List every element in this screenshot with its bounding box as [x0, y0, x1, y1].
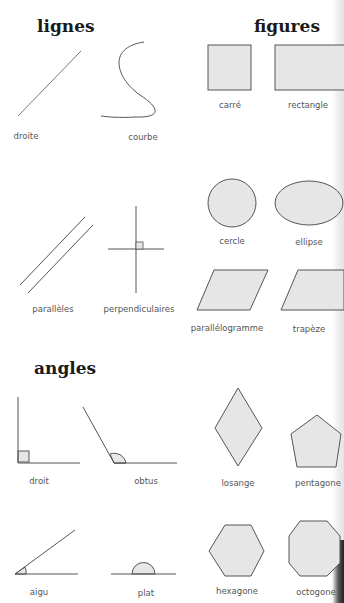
square-shape	[208, 45, 251, 90]
straight-angle-arc	[132, 563, 155, 575]
parallel-line-2	[28, 225, 93, 293]
label-hexagone: hexagone	[216, 586, 258, 596]
right-angle-marker	[136, 242, 143, 249]
label-paralleles: parallèles	[32, 304, 73, 314]
parallelogram-shape	[197, 270, 268, 310]
parallel-line-1	[20, 217, 85, 285]
label-droit: droit	[29, 476, 49, 486]
right-angle-marker-droit	[18, 451, 29, 462]
label-rectangle: rectangle	[288, 100, 328, 110]
label-parallelogramme: parallélogramme	[191, 323, 264, 333]
label-trapeze: trapèze	[293, 324, 325, 334]
ellipse-shape	[275, 181, 343, 225]
label-losange: losange	[221, 478, 254, 488]
obtuse-arc-fill	[110, 453, 126, 463]
label-perpendiculaires: perpendiculaires	[104, 304, 175, 314]
label-pentagone: pentagone	[295, 478, 341, 488]
label-aigu: aigu	[30, 587, 48, 597]
curve-shape	[101, 42, 155, 117]
hexagone-shape	[209, 525, 264, 576]
label-obtus: obtus	[134, 476, 158, 486]
rectangle-shape	[275, 45, 344, 90]
octagon-shape	[289, 521, 340, 576]
label-cercle: cercle	[219, 236, 244, 246]
label-ellipse: ellipse	[295, 237, 322, 247]
shapes-canvas	[0, 0, 344, 603]
pentagon-shape	[291, 415, 341, 467]
rhombus-shape	[215, 388, 262, 466]
circle-shape	[208, 179, 256, 227]
straight-line-shape	[18, 51, 81, 116]
label-octogone: octogone	[296, 587, 336, 597]
label-droite: droite	[14, 131, 39, 141]
obtuse-angle-shape	[83, 407, 177, 463]
acute-angle-shape	[15, 530, 78, 574]
label-courbe: courbe	[128, 132, 157, 142]
trapezoid-shape	[281, 270, 344, 310]
label-carre: carré	[219, 100, 241, 110]
label-plat: plat	[138, 588, 154, 598]
